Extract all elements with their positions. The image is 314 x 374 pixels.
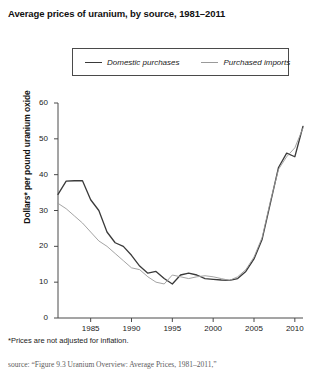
x-tick-label: 1995: [155, 324, 189, 333]
series-line-domestic-purchases: [58, 126, 303, 284]
y-tick-label: 0: [22, 313, 48, 322]
y-tick-label: 50: [22, 134, 48, 143]
x-tick-label: 2010: [278, 324, 312, 333]
x-axis-ticks: [91, 318, 295, 322]
uranium-price-chart-figure: Average prices of uranium, by source, 19…: [0, 0, 314, 374]
x-tick-label: 1990: [115, 324, 149, 333]
x-tick-label: 2000: [196, 324, 230, 333]
y-tick-label: 30: [22, 206, 48, 215]
chart-source-note: source: “Figure 9.3 Uranium Overview: Av…: [8, 360, 314, 370]
y-tick-label: 40: [22, 170, 48, 179]
data-series-group: [58, 126, 303, 284]
y-tick-label: 10: [22, 277, 48, 286]
x-tick-label: 2005: [237, 324, 271, 333]
y-axis-ticks: [54, 103, 58, 318]
y-tick-label: 20: [22, 241, 48, 250]
x-tick-label: 1985: [74, 324, 108, 333]
chart-footnote: *Prices are not adjusted for inflation.: [8, 336, 308, 346]
axes: [58, 103, 303, 318]
y-tick-label: 60: [22, 98, 48, 107]
